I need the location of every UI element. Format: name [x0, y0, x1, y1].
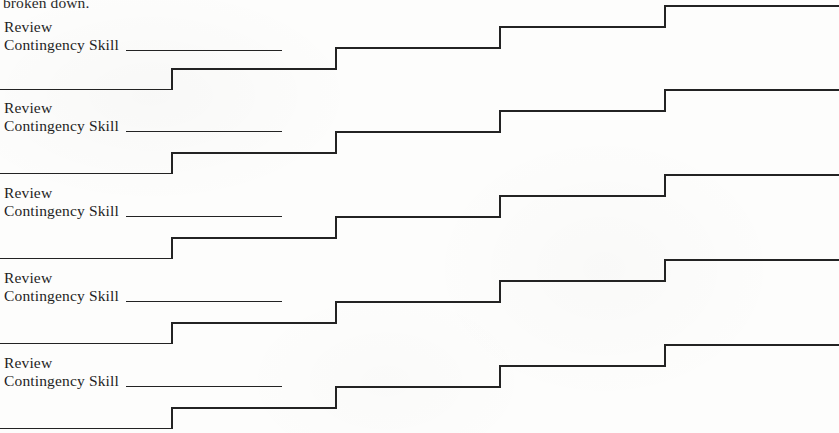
entry-label: ReviewContingency Skill — [4, 354, 282, 390]
entry-label-line2: Contingency Skill — [4, 36, 119, 54]
entry-label-line2-row: Contingency Skill — [4, 202, 282, 220]
entry-label-line2: Contingency Skill — [4, 287, 119, 305]
entry-label-line1: Review — [4, 184, 282, 202]
entry-label-line1: Review — [4, 269, 282, 287]
entry-label: ReviewContingency Skill — [4, 269, 282, 305]
fill-in-blank-rule[interactable] — [126, 216, 282, 217]
entry-label-line1: Review — [4, 18, 282, 36]
entry-label-line1: Review — [4, 354, 282, 372]
entry-label: ReviewContingency Skill — [4, 184, 282, 220]
fill-in-blank-rule[interactable] — [126, 301, 282, 302]
entry-label-line2-row: Contingency Skill — [4, 372, 282, 390]
entry-label-line2: Contingency Skill — [4, 202, 119, 220]
fill-in-blank-rule[interactable] — [126, 386, 282, 387]
entry-label-line2: Contingency Skill — [4, 117, 119, 135]
entry-label-line2-row: Contingency Skill — [4, 117, 282, 135]
fill-in-blank-rule[interactable] — [126, 131, 282, 132]
scanned-form-page: broken down. ReviewContingency SkillRevi… — [0, 0, 839, 433]
entry-label-line1: Review — [4, 99, 282, 117]
entry-label: ReviewContingency Skill — [4, 18, 282, 54]
entry-label: ReviewContingency Skill — [4, 99, 282, 135]
entry-label-line2-row: Contingency Skill — [4, 287, 282, 305]
entry-label-line2-row: Contingency Skill — [4, 36, 282, 54]
entry-label-line2: Contingency Skill — [4, 372, 119, 390]
fill-in-blank-rule[interactable] — [126, 50, 282, 51]
